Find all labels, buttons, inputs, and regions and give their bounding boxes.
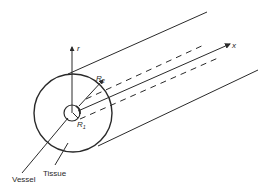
vessel-label: Vessel — [12, 175, 36, 184]
r1-label: R1 — [77, 120, 86, 130]
vessel-leader-line — [22, 118, 68, 173]
r1-radius-arrow — [73, 113, 78, 118]
r-axis-label: r — [77, 44, 80, 53]
r2-label: R2 — [96, 74, 105, 84]
cylinder-bottom-edge — [98, 70, 258, 146]
r1-arc-marker — [76, 106, 80, 114]
tissue-label: Tissue — [43, 169, 67, 178]
cylinder-top-edge — [68, 12, 207, 74]
x-axis-label: x — [231, 41, 237, 50]
vessel-dashed-upper — [86, 44, 206, 99]
vessel-dashed-lower — [80, 58, 218, 119]
tissue-leader-line — [55, 143, 68, 165]
cylinder-diagram: x r R2 R1 Vessel Tissue — [0, 0, 271, 194]
